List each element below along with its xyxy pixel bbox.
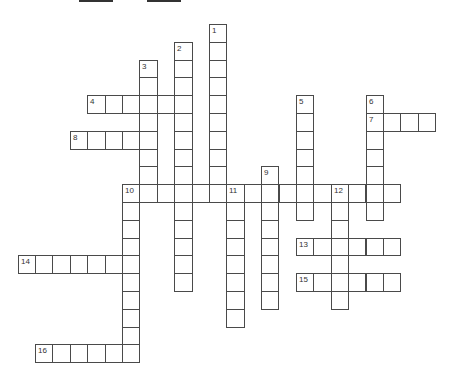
crossword-cell[interactable] — [313, 238, 332, 256]
crossword-cell[interactable] — [52, 344, 71, 363]
crossword-cell[interactable] — [226, 202, 245, 221]
crossword-cell[interactable] — [174, 60, 193, 78]
crossword-cell[interactable] — [366, 202, 384, 221]
crossword-cell[interactable] — [331, 220, 349, 239]
crossword-cell[interactable] — [122, 327, 140, 345]
crossword-cell[interactable] — [122, 273, 140, 292]
crossword-cell[interactable]: 14 — [18, 255, 36, 274]
crossword-cell[interactable] — [261, 273, 279, 292]
crossword-cell[interactable] — [174, 220, 193, 239]
crossword-cell[interactable] — [296, 184, 314, 203]
crossword-cell[interactable] — [261, 291, 279, 310]
crossword-cell[interactable] — [261, 184, 279, 203]
crossword-cell[interactable] — [174, 184, 193, 203]
crossword-cell[interactable]: 9 — [261, 166, 279, 185]
crossword-cell[interactable]: 6 — [366, 95, 384, 114]
crossword-cell[interactable] — [174, 273, 193, 292]
crossword-cell[interactable] — [105, 95, 123, 114]
crossword-cell[interactable] — [139, 113, 158, 132]
crossword-cell[interactable] — [296, 202, 314, 221]
crossword-cell[interactable] — [174, 113, 193, 132]
crossword-cell[interactable] — [209, 95, 227, 114]
crossword-cell[interactable]: 15 — [296, 273, 314, 292]
crossword-cell[interactable] — [313, 184, 332, 203]
crossword-cell[interactable] — [105, 131, 123, 150]
crossword-cell[interactable]: 16 — [35, 344, 53, 363]
crossword-cell[interactable] — [209, 113, 227, 132]
crossword-cell[interactable] — [87, 344, 106, 363]
crossword-cell[interactable] — [296, 149, 314, 167]
crossword-cell[interactable] — [209, 166, 227, 185]
crossword-cell[interactable] — [366, 149, 384, 167]
crossword-cell[interactable] — [331, 255, 349, 274]
crossword-cell[interactable] — [383, 113, 401, 132]
crossword-cell[interactable] — [174, 131, 193, 150]
crossword-cell[interactable] — [122, 95, 140, 114]
crossword-cell[interactable] — [139, 184, 158, 203]
crossword-cell[interactable]: 7 — [366, 113, 384, 132]
crossword-cell[interactable] — [261, 255, 279, 274]
crossword-cell[interactable] — [331, 273, 349, 292]
crossword-cell[interactable]: 1 — [209, 24, 227, 43]
crossword-cell[interactable] — [122, 291, 140, 310]
crossword-cell[interactable] — [226, 273, 245, 292]
crossword-cell[interactable] — [122, 131, 140, 150]
crossword-cell[interactable] — [157, 95, 175, 114]
crossword-cell[interactable] — [122, 238, 140, 256]
crossword-cell[interactable] — [418, 113, 436, 132]
crossword-cell[interactable] — [105, 344, 123, 363]
crossword-cell[interactable] — [226, 291, 245, 310]
crossword-cell[interactable] — [383, 184, 401, 203]
crossword-cell[interactable] — [174, 77, 193, 96]
crossword-cell[interactable] — [209, 60, 227, 78]
crossword-cell[interactable] — [400, 113, 419, 132]
crossword-cell[interactable] — [226, 220, 245, 239]
crossword-cell[interactable] — [296, 166, 314, 185]
crossword-cell[interactable] — [70, 344, 88, 363]
crossword-cell[interactable]: 13 — [296, 238, 314, 256]
crossword-cell[interactable] — [261, 220, 279, 239]
crossword-cell[interactable] — [87, 255, 106, 274]
crossword-cell[interactable] — [348, 238, 366, 256]
crossword-cell[interactable] — [209, 77, 227, 96]
crossword-cell[interactable] — [331, 202, 349, 221]
crossword-cell[interactable] — [209, 149, 227, 167]
crossword-cell[interactable] — [174, 202, 193, 221]
crossword-cell[interactable] — [209, 42, 227, 61]
crossword-cell[interactable] — [279, 184, 297, 203]
crossword-cell[interactable] — [366, 131, 384, 150]
crossword-cell[interactable] — [122, 344, 140, 363]
crossword-cell[interactable] — [226, 309, 245, 328]
crossword-cell[interactable] — [35, 255, 53, 274]
crossword-cell[interactable] — [261, 238, 279, 256]
crossword-cell[interactable] — [122, 309, 140, 328]
crossword-cell[interactable] — [348, 273, 366, 292]
crossword-cell[interactable]: 12 — [331, 184, 349, 203]
crossword-cell[interactable] — [70, 255, 88, 274]
crossword-cell[interactable] — [383, 238, 401, 256]
crossword-cell[interactable] — [348, 184, 366, 203]
crossword-cell[interactable] — [366, 184, 384, 203]
crossword-cell[interactable] — [122, 220, 140, 239]
crossword-cell[interactable]: 2 — [174, 42, 193, 61]
crossword-cell[interactable] — [209, 131, 227, 150]
crossword-cell[interactable] — [122, 202, 140, 221]
crossword-cell[interactable] — [52, 255, 71, 274]
crossword-cell[interactable] — [244, 184, 262, 203]
crossword-cell[interactable] — [122, 255, 140, 274]
crossword-cell[interactable] — [192, 184, 210, 203]
crossword-cell[interactable] — [157, 184, 175, 203]
crossword-cell[interactable]: 4 — [87, 95, 106, 114]
crossword-cell[interactable] — [174, 149, 193, 167]
crossword-cell[interactable] — [366, 238, 384, 256]
crossword-cell[interactable] — [139, 166, 158, 185]
crossword-cell[interactable] — [139, 77, 158, 96]
crossword-cell[interactable]: 8 — [70, 131, 88, 150]
crossword-cell[interactable] — [209, 184, 227, 203]
crossword-cell[interactable] — [174, 166, 193, 185]
crossword-cell[interactable] — [139, 131, 158, 150]
crossword-cell[interactable] — [261, 202, 279, 221]
crossword-cell[interactable] — [139, 149, 158, 167]
crossword-cell[interactable] — [174, 95, 193, 114]
crossword-cell[interactable] — [139, 95, 158, 114]
